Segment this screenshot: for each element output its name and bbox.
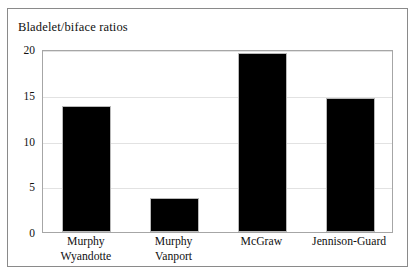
bar-series [43,51,392,232]
x-axis: MurphyWyandotteMurphyVanportMcGrawJennis… [42,235,393,267]
bar [238,53,287,232]
x-tick-label-line: McGraw [218,235,306,250]
x-tick-label-line: Wyandotte [42,250,130,265]
y-tick-label: 15 [24,90,36,102]
bar [62,106,111,232]
x-tick-label-line: Jennison-Guard [305,235,393,250]
x-tick-label-line: Murphy [42,235,130,250]
y-axis: 05101520 [8,50,39,233]
x-tick-label: Jennison-Guard [305,235,393,250]
x-tick-label: MurphyWyandotte [42,235,130,264]
x-tick-label-line: Murphy [130,235,218,250]
chart-title: Bladelet/biface ratios [18,20,128,35]
x-tick-label: MurphyVanport [130,235,218,264]
bar [150,198,199,232]
figure-frame: Bladelet/biface ratios 05101520 MurphyWy… [7,8,408,267]
plot-area [42,50,393,233]
x-tick-label-line: Vanport [130,250,218,265]
y-tick-label: 5 [29,181,35,193]
y-tick-label: 20 [24,44,36,56]
y-tick-label: 10 [24,136,36,148]
y-tick-label: 0 [29,227,35,239]
bar [326,98,375,233]
x-tick-label: McGraw [218,235,306,250]
